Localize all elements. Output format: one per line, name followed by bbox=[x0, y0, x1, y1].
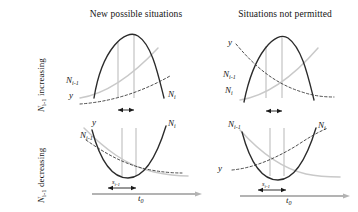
label-n-curr: Ni bbox=[318, 121, 326, 131]
label-t0-sub: 0 bbox=[289, 200, 292, 206]
label-s-prev-sub: i-1 bbox=[115, 182, 121, 187]
label-n-prev: Ni-1 bbox=[228, 120, 241, 130]
measure-arrow-head-left bbox=[266, 109, 271, 113]
label-n-curr: Ni bbox=[168, 90, 176, 100]
dark-parabola-curve bbox=[94, 34, 164, 98]
figure-root: New possible situations Situations not p… bbox=[0, 0, 358, 212]
label-n-prev-sub: i-1 bbox=[86, 135, 93, 141]
label-y: y bbox=[92, 118, 96, 127]
label-y-main: y bbox=[228, 37, 232, 47]
label-s-prev-sub: i-1 bbox=[265, 184, 271, 189]
row-label-decreasing-main: N bbox=[36, 197, 46, 203]
dark-parabola-curve bbox=[92, 126, 166, 178]
label-y: y bbox=[228, 38, 232, 47]
label-n-curr-sub: i bbox=[174, 123, 176, 129]
label-n-curr-sub: i bbox=[324, 125, 326, 131]
column-header-situations-not-permitted: Situations not permitted bbox=[212, 9, 358, 19]
gray-decreasing-curve bbox=[240, 130, 340, 177]
label-n-prev: Ni-1 bbox=[66, 76, 79, 86]
label-t0: t0 bbox=[138, 194, 144, 204]
label-n-prev-sub: i-1 bbox=[234, 124, 241, 130]
row-label-increasing-tail: increasing bbox=[36, 58, 46, 98]
label-n-prev: Ni-1 bbox=[223, 70, 236, 80]
row-label-decreasing: Ni-1 decreasing bbox=[36, 148, 47, 203]
row-label-decreasing-sub: i-1 bbox=[40, 189, 47, 197]
panel-bottom-left: y Ni-1 Ni si-1 t0 bbox=[60, 114, 210, 210]
row-label-increasing-main: N bbox=[36, 106, 46, 112]
measure-arrow-head-left bbox=[118, 108, 123, 112]
label-n-prev-sub: i-1 bbox=[72, 80, 79, 86]
label-y-main: y bbox=[69, 90, 73, 100]
panel-top-left-plot bbox=[60, 26, 210, 118]
row-label-decreasing-tail: decreasing bbox=[36, 148, 46, 190]
label-y: y bbox=[218, 164, 222, 173]
gray-increasing-curve bbox=[80, 48, 158, 98]
panel-bottom-right: Ni-1 Ni y si-1 t0 bbox=[210, 114, 358, 210]
label-y-main: y bbox=[218, 163, 222, 173]
row-label-increasing: Ni-1 increasing bbox=[36, 58, 47, 112]
measure-arrow-head-right bbox=[277, 109, 282, 113]
label-y-main: y bbox=[92, 117, 96, 127]
label-n-prev-sub: i-1 bbox=[229, 74, 236, 80]
measure-arrow-head-right bbox=[129, 108, 134, 112]
label-n-curr: Ni bbox=[168, 119, 176, 129]
label-n-prev: Ni-1 bbox=[80, 131, 93, 141]
t0-axis-arrow-head bbox=[343, 193, 350, 198]
panel-bottom-left-plot bbox=[60, 114, 210, 210]
label-n-curr-sub: i bbox=[231, 90, 233, 96]
label-s-prev: si-1 bbox=[112, 179, 120, 187]
measure-arrow-head-right bbox=[281, 188, 286, 192]
t0-axis-arrow-head bbox=[195, 191, 202, 196]
measure-arrow-head-right bbox=[131, 186, 136, 190]
column-header-new-possible-situations: New possible situations bbox=[62, 9, 210, 19]
dashed-curve bbox=[86, 140, 182, 173]
panel-top-left: Ni-1 y Ni bbox=[60, 26, 210, 118]
label-n-curr-sub: i bbox=[174, 94, 176, 100]
dashed-curve bbox=[236, 44, 334, 97]
label-t0: t0 bbox=[286, 196, 292, 206]
row-label-increasing-sub: i-1 bbox=[40, 98, 47, 106]
panel-top-right: y Ni-1 Ni bbox=[210, 26, 358, 118]
label-t0-sub: 0 bbox=[141, 198, 144, 204]
label-s-prev: si-1 bbox=[262, 181, 270, 189]
label-y: y bbox=[69, 91, 73, 100]
label-n-curr: Ni bbox=[225, 86, 233, 96]
dashed-curve bbox=[80, 76, 170, 104]
dark-parabola-curve bbox=[242, 128, 316, 180]
